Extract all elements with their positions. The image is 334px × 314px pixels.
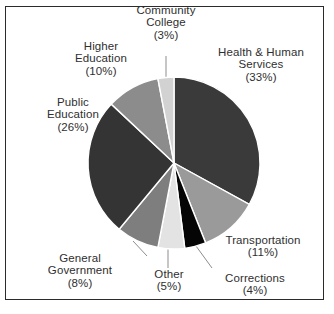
label-health-human-services-line3: (33%)	[196, 71, 326, 83]
label-community-college-line2: College	[110, 16, 222, 28]
label-public-education-line1: Public	[20, 96, 126, 108]
label-health-human-services: Health & Human Services (33%)	[196, 46, 326, 83]
label-corrections-line1: Corrections	[210, 272, 300, 284]
label-corrections-line2: (4%)	[210, 284, 300, 296]
label-other-line1: Other	[142, 268, 196, 280]
label-transportation-line2: (11%)	[212, 246, 314, 258]
label-higher-education-line1: Higher	[48, 40, 154, 52]
pie-chart-figure: Community College (3%) Health & Human Se…	[0, 0, 334, 314]
label-public-education-line3: (26%)	[20, 121, 126, 133]
label-public-education: Public Education (26%)	[20, 96, 126, 133]
label-community-college: Community College (3%)	[110, 4, 222, 41]
label-general-government: General Government (8%)	[22, 252, 138, 289]
label-general-government-line3: (8%)	[22, 277, 138, 289]
label-health-human-services-line2: Services	[196, 58, 326, 70]
label-transportation-line1: Transportation	[212, 234, 314, 246]
label-higher-education-line2: Education	[48, 52, 154, 64]
label-other: Other (5%)	[142, 268, 196, 293]
label-corrections: Corrections (4%)	[210, 272, 300, 297]
label-other-line2: (5%)	[142, 280, 196, 292]
leader-line-corrections	[196, 246, 212, 268]
label-higher-education: Higher Education (10%)	[48, 40, 154, 77]
label-community-college-line1: Community	[110, 4, 222, 16]
label-general-government-line2: Government	[22, 264, 138, 276]
label-public-education-line2: Education	[20, 108, 126, 120]
label-transportation: Transportation (11%)	[212, 234, 314, 259]
label-higher-education-line3: (10%)	[48, 65, 154, 77]
label-general-government-line1: General	[22, 252, 138, 264]
label-health-human-services-line1: Health & Human	[196, 46, 326, 58]
